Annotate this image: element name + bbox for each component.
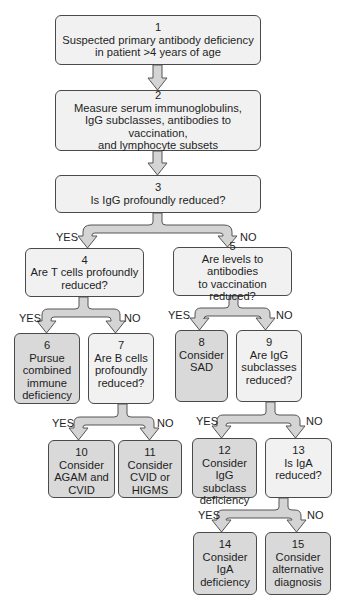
node-number: 5	[229, 240, 235, 253]
node-11-cvid-higms: 11 Consider CVID or HIGMS	[118, 440, 182, 498]
edge-label-7-10: YES	[52, 417, 74, 429]
node-12-igg-subclass-deficiency: 12 Consider IgG subclass deficiency	[192, 438, 257, 498]
edge-label-5-9: NO	[276, 309, 293, 321]
node-number: 6	[44, 339, 50, 352]
edge-label-9-13: NO	[306, 415, 323, 427]
node-text: Consider IgA deficiency	[196, 551, 254, 589]
edge-label-3-5: NO	[240, 231, 257, 243]
node-number: 7	[118, 339, 124, 352]
node-6-combined-immune-deficiency: 6 Pursue combined immune deficiency	[14, 333, 80, 404]
node-text: Consider AGAM and CVID	[54, 459, 109, 497]
node-number: 3	[155, 181, 161, 194]
node-text: Are B cells profoundly reduced?	[94, 352, 147, 390]
node-text: Are levels to antibodies to vaccination …	[176, 253, 289, 303]
node-text: Is IgG profoundly reduced?	[91, 194, 226, 207]
node-14-iga-deficiency: 14 Consider IgA deficiency	[193, 532, 257, 595]
node-text: Consider alternative diagnosis	[272, 551, 324, 589]
node-text: Consider CVID or HIGMS	[128, 459, 173, 497]
edge-label-9-12: YES	[196, 415, 218, 427]
node-3-igg-reduced: 3 Is IgG profoundly reduced?	[55, 175, 261, 213]
node-text: Are T cells profoundly reduced?	[31, 266, 139, 291]
node-5-vaccination-antibodies-reduced: 5 Are levels to antibodies to vaccinatio…	[173, 247, 292, 296]
node-text: Is IgA reduced?	[275, 457, 322, 482]
node-number: 14	[219, 538, 231, 551]
node-8-consider-sad: 8 Consider SAD	[175, 330, 228, 402]
edge-label-7-11: NO	[157, 417, 174, 429]
edge-label-4-6: YES	[19, 312, 41, 324]
edge-label-13-14: YES	[198, 509, 220, 521]
edge-label-4-7: NO	[124, 312, 141, 324]
node-number: 1	[155, 21, 161, 34]
node-text: Suspected primary antibody deficiency in…	[62, 34, 254, 59]
node-2-measure-immunoglobulins: 2 Measure serum immunoglobulins, IgG sub…	[55, 90, 261, 151]
node-13-iga-reduced: 13 Is IgA reduced?	[265, 438, 332, 498]
node-number: 2	[155, 89, 161, 102]
node-text: Are IgG subclasses reduced?	[241, 349, 296, 387]
node-number: 12	[218, 444, 230, 457]
node-10-agam-cvid: 10 Consider AGAM and CVID	[48, 440, 115, 498]
node-text: Consider IgG subclass deficiency	[195, 457, 254, 507]
node-number: 13	[292, 444, 304, 457]
node-7-b-cells-reduced: 7 Are B cells profoundly reduced?	[88, 333, 154, 404]
node-4-t-cells-reduced: 4 Are T cells profoundly reduced?	[25, 248, 144, 297]
node-9-igg-subclasses-reduced: 9 Are IgG subclasses reduced?	[236, 330, 302, 402]
edge-label-5-8: YES	[168, 309, 190, 321]
node-number: 9	[266, 336, 272, 349]
edge-label-3-4: YES	[56, 231, 78, 243]
node-number: 10	[75, 446, 87, 459]
node-15-alternative-diagnosis: 15 Consider alternative diagnosis	[265, 532, 331, 595]
node-1-suspected-deficiency: 1 Suspected primary antibody deficiency …	[55, 15, 261, 65]
node-number: 15	[292, 538, 304, 551]
node-number: 11	[144, 446, 156, 459]
edge-label-13-15: NO	[307, 509, 324, 521]
node-text: Measure serum immunoglobulins, IgG subcl…	[58, 102, 258, 152]
node-number: 8	[198, 336, 204, 349]
node-text: Pursue combined immune deficiency	[22, 352, 72, 402]
node-number: 4	[81, 254, 87, 267]
node-text: Consider SAD	[179, 349, 224, 374]
